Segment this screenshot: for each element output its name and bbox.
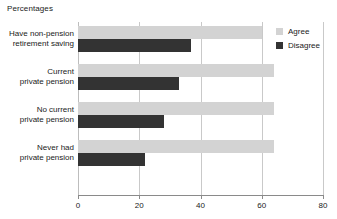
- legend-swatch-icon: [276, 28, 283, 35]
- bar-agree: [78, 140, 274, 153]
- x-tick-label: 80: [319, 201, 328, 210]
- bar-group: [78, 102, 323, 128]
- bar-agree: [78, 26, 262, 39]
- percentages-bar-chart: Percentages AgreeDisagree Have non-pensi…: [0, 0, 337, 219]
- legend-item-agree[interactable]: Agree: [276, 26, 320, 37]
- x-tick-0: [78, 195, 79, 199]
- bar-disagree: [78, 77, 179, 90]
- bar-disagree: [78, 153, 145, 166]
- legend-label: Agree: [288, 27, 309, 36]
- bar-group: [78, 64, 323, 90]
- category-label: Current private pension: [0, 67, 74, 86]
- category-label: Never had private pension: [0, 143, 74, 162]
- category-label: Have non-pension retirement saving: [0, 29, 74, 48]
- legend-label: Disagree: [288, 41, 320, 50]
- legend-item-disagree[interactable]: Disagree: [276, 40, 320, 51]
- bar-agree: [78, 102, 274, 115]
- x-tick-label: 0: [76, 201, 80, 210]
- x-tick-80: [323, 195, 324, 199]
- bar-disagree: [78, 115, 164, 128]
- x-tick-label: 40: [196, 201, 205, 210]
- chart-title: Percentages: [7, 4, 53, 13]
- bar-disagree: [78, 39, 191, 52]
- x-tick-20: [139, 195, 140, 199]
- x-tick-label: 20: [135, 201, 144, 210]
- x-tick-40: [201, 195, 202, 199]
- category-label: No current private pension: [0, 105, 74, 124]
- chart-legend: AgreeDisagree: [276, 26, 320, 54]
- x-tick-label: 60: [257, 201, 266, 210]
- x-tick-60: [262, 195, 263, 199]
- legend-swatch-icon: [276, 42, 283, 49]
- gridline-80: [323, 22, 324, 195]
- bar-agree: [78, 64, 274, 77]
- bar-group: [78, 140, 323, 166]
